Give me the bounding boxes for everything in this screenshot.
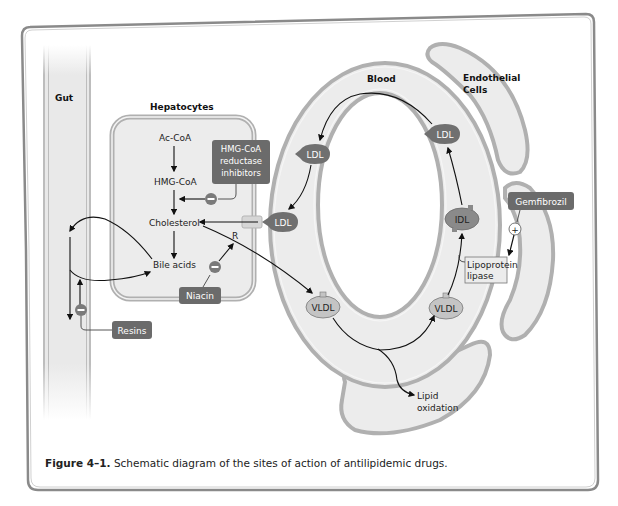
lipoprotein-lipase-label-2: lipase bbox=[467, 271, 494, 281]
vldl-right-label: VLDL bbox=[434, 304, 457, 314]
niacin-drug-box: Niacin bbox=[179, 287, 221, 304]
resins-drug-box: Resins bbox=[112, 321, 152, 339]
statin-label-2: reductase bbox=[220, 156, 262, 166]
plus-sign: + bbox=[511, 225, 519, 235]
endothelial-label-2: Cells bbox=[463, 85, 487, 95]
ldl-receptor-label: LDL bbox=[275, 218, 292, 228]
endothelial-label-1: Endothelial bbox=[463, 73, 520, 83]
hmg-coa-label: HMG-CoA bbox=[154, 177, 198, 187]
statin-label-3: inhibitors bbox=[221, 168, 261, 178]
ldl-left-label: LDL bbox=[307, 150, 324, 160]
vldl-left-label: VLDL bbox=[311, 303, 334, 313]
blood-label: Blood bbox=[367, 74, 396, 84]
figure-caption-label: Figure 4–1. bbox=[45, 457, 111, 469]
lipid-oxidation-label-1: Lipid bbox=[417, 391, 438, 401]
idl-label: IDL bbox=[455, 215, 470, 225]
ldl-right-label: LDL bbox=[437, 130, 454, 140]
gemfibrozil-drug-box: Gemfibrozil bbox=[508, 192, 574, 210]
gut-label: Gut bbox=[55, 93, 74, 103]
cholesterol-label: Cholesterol bbox=[149, 218, 200, 228]
figure-caption-text: Schematic diagram of the sites of action… bbox=[111, 457, 448, 469]
gemfibrozil-label: Gemfibrozil bbox=[515, 197, 566, 207]
resins-label: Resins bbox=[118, 326, 147, 336]
ac-coa-label: Ac-CoA bbox=[159, 133, 192, 143]
hepatocytes-label: Hepatocytes bbox=[150, 102, 214, 112]
antilipidemic-drug-diagram: Gut Hepatocytes Endothelial Cells Blood … bbox=[0, 0, 618, 506]
niacin-label: Niacin bbox=[186, 291, 214, 301]
bile-acids-label: Bile acids bbox=[153, 260, 196, 270]
lipoprotein-lipase-label-1: Lipoprotein bbox=[467, 260, 518, 270]
statin-label-1: HMG-CoA bbox=[221, 144, 262, 154]
lipid-oxidation-label-2: oxidation bbox=[417, 403, 459, 413]
statin-drug-box: HMG-CoA reductase inhibitors bbox=[212, 140, 270, 184]
figure-caption: Figure 4–1. Schematic diagram of the sit… bbox=[45, 457, 448, 469]
